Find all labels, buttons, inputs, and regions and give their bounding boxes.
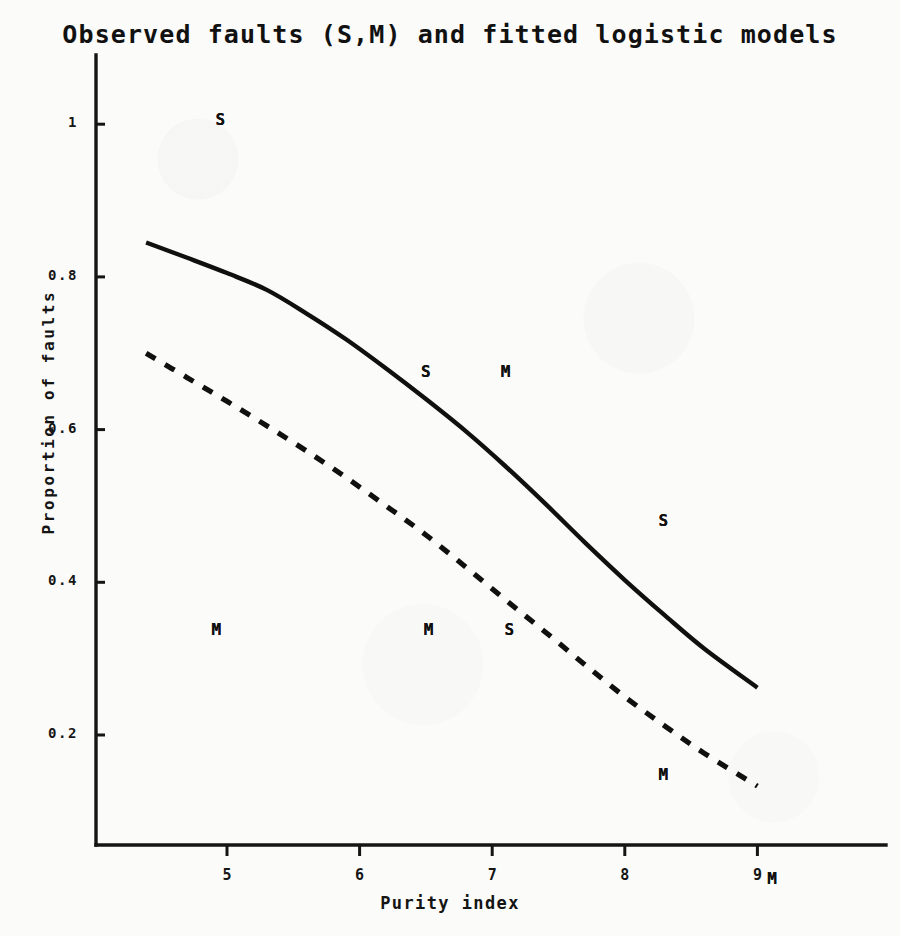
x-tick-label: 5: [212, 866, 242, 884]
axis-lines: [96, 55, 886, 845]
observed-point-s: S: [209, 110, 231, 129]
x-tick-label: 6: [345, 866, 375, 884]
observed-point-s: S: [652, 511, 674, 530]
observed-point-m: M: [418, 620, 440, 639]
plot-area: [0, 0, 900, 936]
solid-fitted-curve: [146, 243, 757, 688]
axis-ticks: [95, 124, 757, 856]
y-tick-label: 0.6: [8, 420, 78, 436]
y-tick-label: 0.2: [8, 725, 78, 741]
observed-point-m: M: [761, 869, 783, 888]
chart-figure: Observed faults (S,M) and fitted logisti…: [0, 0, 900, 936]
observed-point-m: M: [494, 362, 516, 381]
x-tick-label: 8: [610, 866, 640, 884]
observed-point-s: S: [415, 362, 437, 381]
x-tick-label: 7: [477, 866, 507, 884]
y-tick-label: 1: [8, 114, 78, 130]
y-tick-label: 0.4: [8, 572, 78, 588]
observed-point-s: S: [498, 620, 520, 639]
observed-point-m: M: [205, 620, 227, 639]
y-tick-label: 0.8: [8, 267, 78, 283]
observed-point-m: M: [652, 765, 674, 784]
